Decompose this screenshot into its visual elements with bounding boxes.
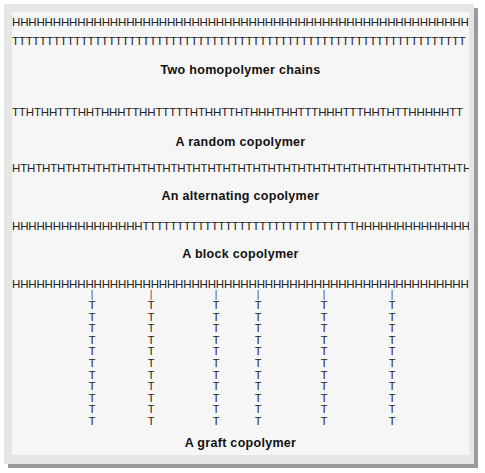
homopolymer-caption: Two homopolymer chains [12, 63, 469, 77]
random-copolymer-caption: A random copolymer [12, 135, 469, 149]
alternating-copolymer-caption: An alternating copolymer [12, 189, 469, 203]
graft-branch: | TTTTTTTTTTT [145, 290, 157, 428]
homopolymer-chain-h: HHHHHHHHHHHHHHHHHHHHHHHHHHHHHHHHHHHHHHHH… [12, 15, 469, 29]
block-copolymer-chain: HHHHHHHHHHHHHHHHTTTTTTTTTTTTTTTTTTTTTTTT… [12, 219, 469, 233]
alternating-copolymer-chain: HTHTHTHTHTHTHTHTHTHTHTHTHTHTHTHTHTHTHTHT… [12, 161, 469, 175]
diagram-frame: HHHHHHHHHHHHHHHHHHHHHHHHHHHHHHHHHHHHHHHH… [4, 4, 474, 464]
graft-branch: | TTTTTTTTTTT [210, 290, 222, 428]
graft-branch: | TTTTTTTTTTT [386, 290, 398, 428]
homopolymer-chain-t: TTTTTTTTTTTTTTTTTTTTTTTTTTTTTTTTTTTTTTTT… [12, 34, 469, 48]
diagram-panel: HHHHHHHHHHHHHHHHHHHHHHHHHHHHHHHHHHHHHHHH… [12, 12, 469, 455]
graft-branch: | TTTTTTTTTTT [86, 290, 98, 428]
block-copolymer-caption: A block copolymer [12, 247, 469, 261]
graft-branch: | TTTTTTTTTTT [252, 290, 264, 428]
graft-copolymer-caption: A graft copolymer [12, 436, 469, 450]
graft-branch: | TTTTTTTTTTT [318, 290, 330, 428]
random-copolymer-chain: TTHTHHTTTHHTHHHTTHHTTTTTHTHHTTHTHHHTHHTT… [12, 105, 469, 119]
graft-backbone: HHHHHHHHHHHHHHHHHHHHHHHHHHHHHHHHHHHHHHHH… [12, 277, 469, 291]
